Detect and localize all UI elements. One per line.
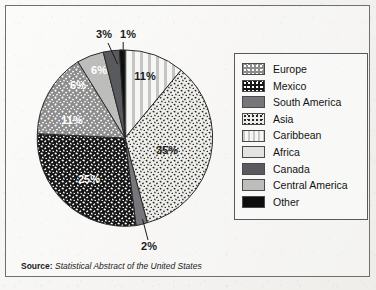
legend-label-africa: Africa — [273, 147, 300, 158]
pie-label-asia: 35% — [156, 144, 178, 156]
figure-container: 11% 35% 2% 25% 11% 6% 6% 3% 1% Europe — [0, 0, 376, 290]
legend-item-europe[interactable]: Europe — [242, 61, 361, 78]
legend-item-south-america[interactable]: South America — [242, 94, 361, 111]
asia-swatch-icon — [242, 113, 265, 125]
mexico-swatch-icon — [242, 80, 265, 92]
pie-label-mexico: 25% — [78, 173, 100, 185]
legend-item-africa[interactable]: Africa — [242, 144, 361, 161]
legend-item-central-america[interactable]: Central America — [242, 177, 361, 194]
pie-label-canada: 6% — [91, 64, 107, 76]
south-america-swatch-icon — [242, 96, 265, 108]
caribbean-swatch-icon — [242, 130, 265, 142]
europe-swatch-icon — [242, 63, 265, 75]
legend-item-asia[interactable]: Asia — [242, 111, 361, 128]
legend-item-mexico[interactable]: Mexico — [242, 78, 361, 95]
source-prefix: Source: — [21, 261, 53, 271]
pie-label-caribbean: 11% — [134, 70, 156, 82]
legend-label-asia: Asia — [273, 114, 293, 125]
pie-label-central-america: 6% — [70, 79, 86, 91]
legend-label-caribbean: Caribbean — [273, 130, 321, 141]
legend-item-other[interactable]: Other — [242, 194, 361, 211]
chart-legend: Europe Mexico South America Asia Caribbe… — [234, 53, 368, 220]
pie-slices — [37, 50, 212, 226]
legend-label-canada: Canada — [273, 164, 310, 175]
pie-label-other: 1% — [120, 28, 136, 40]
africa-swatch-icon — [242, 146, 265, 158]
legend-label-south-america: South America — [273, 97, 341, 108]
canada-swatch-icon — [242, 163, 265, 175]
legend-item-caribbean[interactable]: Caribbean — [242, 127, 361, 144]
legend-label-central-america: Central America — [273, 180, 348, 191]
pie-chart-area: 11% 35% 2% 25% 11% 6% 6% 3% 1% — [12, 12, 234, 252]
pie-chart-svg: 11% 35% 2% 25% 11% 6% 6% 3% 1% — [12, 12, 234, 252]
central-america-swatch-icon — [242, 179, 265, 191]
source-title: Statistical Abstract of the United State… — [55, 261, 202, 271]
pie-label-africa: 3% — [96, 28, 112, 40]
pie-label-south-america: 2% — [141, 240, 157, 252]
pie-label-europe: 11% — [61, 114, 83, 126]
source-caption: Source: Statistical Abstract of the Unit… — [21, 261, 202, 271]
legend-label-europe: Europe — [273, 64, 307, 75]
legend-label-other: Other — [273, 197, 299, 208]
legend-item-canada[interactable]: Canada — [242, 161, 361, 178]
other-swatch-icon — [242, 196, 265, 208]
legend-label-mexico: Mexico — [273, 81, 306, 92]
figure-frame-border: 11% 35% 2% 25% 11% 6% 6% 3% 1% Europe — [5, 5, 370, 277]
